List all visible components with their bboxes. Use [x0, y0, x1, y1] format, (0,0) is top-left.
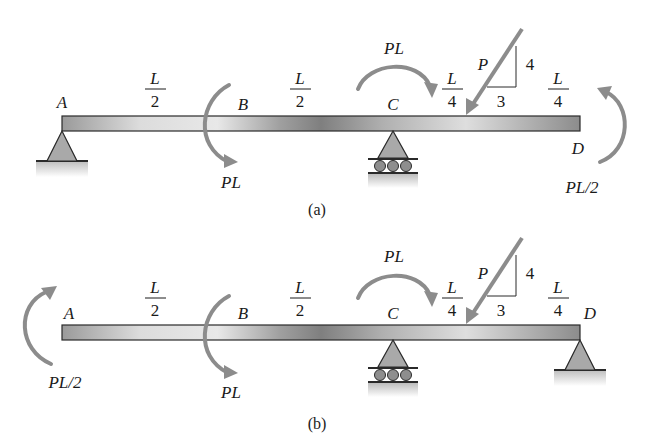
moment-arrow-c: PL: [358, 39, 438, 98]
svg-text:4: 4: [554, 92, 563, 111]
svg-text:L: L: [552, 69, 562, 88]
svg-text:L: L: [149, 69, 159, 88]
force-label: P: [477, 55, 488, 74]
svg-text:2: 2: [296, 92, 305, 111]
figure-caption-a: (a): [308, 201, 326, 219]
force-label: P: [477, 264, 488, 283]
beam-diagrams: A B C D L 2 L 2 L 4 L 4 PL: [0, 0, 656, 447]
svg-text:L: L: [294, 278, 304, 297]
moment-label-c: PL: [383, 39, 404, 58]
span-label-force-d: L 4: [548, 69, 569, 111]
span-label-c-force: L 4: [442, 278, 463, 320]
svg-text:L: L: [294, 69, 304, 88]
moment-arrow-c: PL: [358, 247, 438, 307]
point-label-d: D: [583, 304, 597, 323]
svg-text:2: 2: [151, 301, 160, 320]
roller-support-c: [368, 340, 418, 397]
point-label-b: B: [238, 304, 249, 323]
span-label-force-d: L 4: [548, 278, 569, 320]
moment-label-c: PL: [383, 247, 404, 266]
svg-text:L: L: [446, 69, 456, 88]
svg-text:L: L: [552, 278, 562, 297]
point-label-b: B: [238, 95, 249, 114]
slope-rise: 4: [526, 264, 535, 283]
moment-label-d: PL/2: [564, 178, 599, 197]
span-label-ab: L 2: [145, 278, 166, 320]
slope-rise: 4: [526, 55, 535, 74]
span-label-c-force: L 4: [442, 69, 463, 111]
span-label-ab: L 2: [145, 69, 166, 111]
point-label-d: D: [571, 139, 585, 158]
svg-text:4: 4: [448, 301, 457, 320]
moment-arrow-b: PL: [205, 296, 241, 402]
moment-label-b: PL: [220, 173, 241, 192]
beam: [62, 325, 580, 340]
point-label-a: A: [63, 304, 75, 323]
force-p: P 4 3: [466, 29, 535, 115]
slope-run: 3: [497, 301, 506, 320]
figure-a: A B C D L 2 L 2 L 4 L 4 PL: [36, 29, 625, 219]
moment-label-b: PL: [220, 383, 241, 402]
svg-text:L: L: [446, 278, 456, 297]
svg-text:2: 2: [296, 301, 305, 320]
pin-support-a: [36, 131, 88, 177]
beam: [62, 116, 580, 131]
svg-text:2: 2: [151, 92, 160, 111]
point-label-c: C: [387, 95, 399, 114]
moment-label-a: PL/2: [47, 373, 82, 392]
span-label-bc: L 2: [290, 278, 311, 320]
slope-run: 3: [497, 92, 506, 111]
point-label-c: C: [387, 304, 399, 323]
svg-text:4: 4: [448, 92, 457, 111]
svg-text:4: 4: [554, 301, 563, 320]
roller-support-c: [368, 131, 418, 188]
span-label-bc: L 2: [290, 69, 311, 111]
svg-text:L: L: [149, 278, 159, 297]
moment-arrow-b: PL: [205, 85, 241, 192]
figure-b: A B C D L 2 L 2 L 4 L 4 PL/2: [25, 238, 606, 433]
point-label-a: A: [56, 93, 68, 112]
force-p: P 4 3: [466, 238, 535, 324]
figure-caption-b: (b): [308, 415, 327, 433]
pin-support-d: [554, 340, 606, 386]
